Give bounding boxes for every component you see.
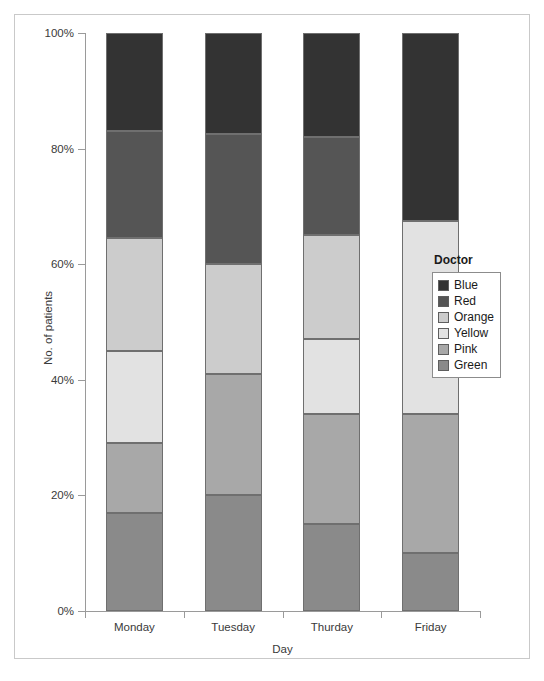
y-tick-mark [78,149,86,150]
legend-item-label: Blue [454,277,478,293]
stacked-bar[interactable] [205,33,262,611]
legend-item-label: Pink [454,341,477,357]
y-axis-title: No. of patients [42,268,54,388]
bar-segment-yellow[interactable] [106,351,163,443]
y-tick-mark [78,264,86,265]
x-tick-mark [283,611,284,618]
bar-segment-orange[interactable] [303,235,360,339]
bar-segment-red[interactable] [205,134,262,264]
y-tick-mark [78,495,86,496]
y-tick-label: 0% [26,605,74,617]
bar-segment-blue[interactable] [303,33,360,137]
legend: Doctor BlueRedOrangeYellowPinkGreen [432,253,501,378]
legend-item-label: Red [454,293,476,309]
legend-item-green[interactable]: Green [438,357,494,373]
stacked-bar[interactable] [106,33,163,611]
legend-title: Doctor [432,253,501,267]
bar-segment-yellow[interactable] [303,339,360,414]
bar-segment-orange[interactable] [106,238,163,351]
x-tick-mark [480,611,481,618]
legend-box: BlueRedOrangeYellowPinkGreen [432,272,501,378]
x-tick-mark [381,611,382,618]
legend-swatch-icon [438,280,449,291]
y-tick-mark [78,33,86,34]
bar-segment-green[interactable] [402,553,459,611]
legend-swatch-icon [438,312,449,323]
x-tick-label: Thurday [311,621,353,633]
bar-segment-pink[interactable] [205,374,262,495]
bar-segment-blue[interactable] [205,33,262,134]
legend-item-label: Yellow [454,325,488,341]
bar-segment-red[interactable] [303,137,360,235]
legend-item-orange[interactable]: Orange [438,309,494,325]
stacked-bar[interactable] [303,33,360,611]
y-tick-label: 20% [26,489,74,501]
x-tick-label: Tuesday [211,621,255,633]
legend-item-yellow[interactable]: Yellow [438,325,494,341]
legend-item-red[interactable]: Red [438,293,494,309]
bar-segment-green[interactable] [205,495,262,611]
stacked-bar-chart: 100%80%60%40%20%0% MondayTuesdayThurdayF… [0,0,544,681]
x-tick-label: Monday [114,621,155,633]
bar-segment-red[interactable] [106,131,163,238]
legend-swatch-icon [438,344,449,355]
bar-segment-orange[interactable] [205,264,262,374]
x-axis-title: Day [85,643,480,655]
bar-segment-green[interactable] [303,524,360,611]
y-tick-label: 100% [26,27,74,39]
scanned-page: 100%80%60%40%20%0% MondayTuesdayThurdayF… [0,0,544,681]
legend-swatch-icon [438,328,449,339]
legend-swatch-icon [438,296,449,307]
bar-segment-pink[interactable] [402,414,459,553]
bar-segment-pink[interactable] [106,443,163,512]
x-tick-mark [184,611,185,618]
x-tick-label: Friday [415,621,447,633]
legend-item-pink[interactable]: Pink [438,341,494,357]
bar-segment-blue[interactable] [106,33,163,131]
bar-segment-blue[interactable] [402,33,459,221]
legend-swatch-icon [438,360,449,371]
bar-segment-pink[interactable] [303,414,360,524]
bar-segment-green[interactable] [106,513,163,611]
legend-item-blue[interactable]: Blue [438,277,494,293]
legend-item-label: Orange [454,309,494,325]
x-tick-mark [85,611,86,618]
legend-item-label: Green [454,357,487,373]
y-axis-line [85,33,86,611]
y-tick-mark [78,380,86,381]
y-tick-label: 80% [26,143,74,155]
